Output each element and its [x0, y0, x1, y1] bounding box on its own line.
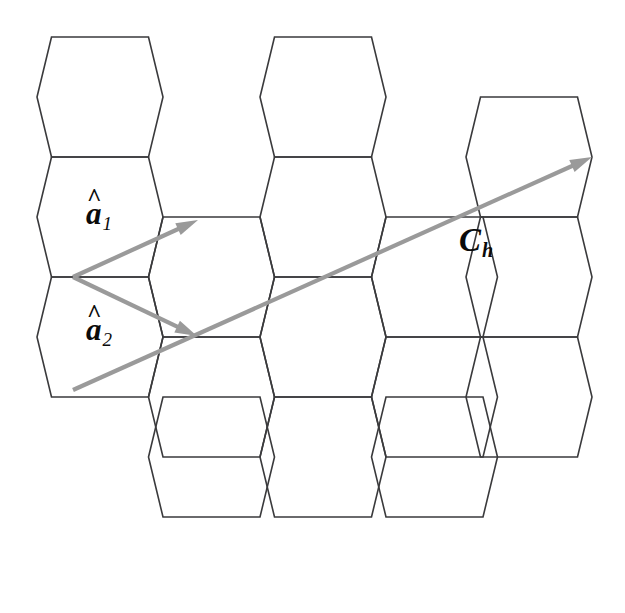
- label-a2: ^a2: [86, 312, 112, 351]
- label-ch: Ch: [459, 222, 493, 262]
- label-ch-base: C: [459, 222, 481, 259]
- label-ch-letter: C: [459, 222, 481, 258]
- label-a2-subscript: 2: [102, 329, 113, 350]
- label-a1-base: ^a: [86, 196, 102, 232]
- label-a1-subscript: 1: [102, 213, 113, 234]
- hat-icon-a1: ^: [87, 185, 102, 210]
- label-ch-subscript: h: [481, 239, 493, 261]
- label-a2-base: ^a: [86, 312, 102, 348]
- lattice-figure: ^a1 ^a2 Ch: [0, 0, 625, 613]
- label-a1: ^a1: [86, 196, 112, 235]
- hat-icon-a2: ^: [87, 301, 102, 326]
